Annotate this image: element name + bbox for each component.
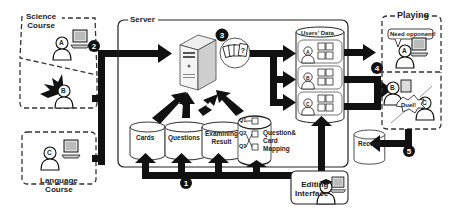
duel-text: Duel! xyxy=(401,101,416,109)
users-data-b-letter: B xyxy=(306,74,310,82)
playing-a-letter: A xyxy=(402,47,407,55)
playing-b-letter: B xyxy=(390,84,395,92)
cards-db-label: Cards xyxy=(136,134,154,142)
step-1-number: 1 xyxy=(184,179,189,188)
step-3-number: 3 xyxy=(220,31,225,40)
playing-c-letter: C xyxy=(422,99,427,107)
user-c-letter: C xyxy=(47,149,52,157)
record-db-label: Record xyxy=(358,140,380,148)
step-5-number: 5 xyxy=(407,147,412,156)
server-tower-icon xyxy=(180,35,216,90)
mapping-q2: Q2 xyxy=(239,129,246,137)
users-data-label: Users' Data xyxy=(301,29,334,37)
user-a-letter: A xyxy=(59,39,64,47)
card-question-mark: ? xyxy=(241,47,245,54)
users-data-a-letter: A xyxy=(306,48,310,56)
editing-interface-label: EditingInterface xyxy=(295,180,328,198)
system-architecture-diagram: ? xyxy=(0,0,463,220)
computer-icon xyxy=(410,38,428,56)
user-b-letter: B xyxy=(61,87,66,95)
db-to-server-arrows xyxy=(152,90,244,124)
computer-icon xyxy=(62,140,80,158)
arrow-step-3 xyxy=(250,45,296,111)
mapping-q1: Q1 xyxy=(239,116,246,124)
mapping-q3: Q3 xyxy=(239,142,246,150)
monitor-icon xyxy=(401,80,411,92)
speech-bubble-text: Need opponent! xyxy=(390,30,436,38)
computer-icon xyxy=(330,177,345,192)
questions-db-label: Questions xyxy=(168,134,200,142)
science-course-label: ScienceCourse xyxy=(26,12,56,30)
step-4-number: 4 xyxy=(375,64,380,73)
language-course-label: LanguageCourse xyxy=(40,176,78,194)
question-card-mapping-label: Question&CardMapping xyxy=(263,129,296,153)
examining-result-db-label: ExaminingResult xyxy=(205,130,238,146)
playing-label: Playing xyxy=(397,11,429,20)
computer-icon xyxy=(71,30,89,48)
server-label: Server xyxy=(130,15,155,24)
users-data-c-letter: C xyxy=(306,100,310,108)
step-2-number: 2 xyxy=(92,42,97,51)
